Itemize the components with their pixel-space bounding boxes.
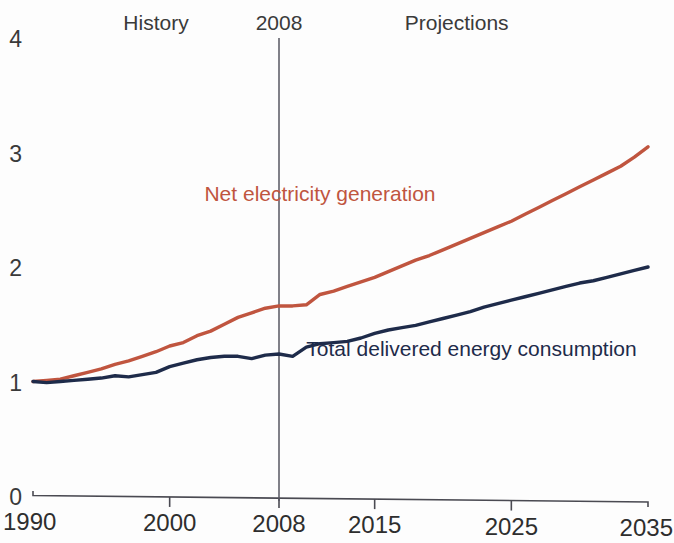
y-axis-tick-label: 3 [9, 141, 22, 167]
y-axis-tick-label: 4 [9, 26, 22, 52]
series-label-net-electricity-generation: Net electricity generation [204, 182, 435, 205]
series-label-total-delivered-energy-consumption: Total delivered energy consumption [306, 337, 636, 360]
x-axis-tick-label: 2000 [143, 509, 196, 536]
x-axis-tick-label: 1990 [3, 508, 56, 535]
y-axis-tick-label: 1 [9, 370, 22, 396]
x-axis-tick-label: 2025 [485, 513, 538, 540]
x-axis-tick-label: 2035 [620, 514, 673, 541]
annotation-projections: Projections [405, 11, 509, 34]
chart-container: 19902000200820152025203501234History2008… [0, 0, 674, 543]
annotation-2008: 2008 [256, 11, 303, 34]
x-axis-tick-label: 2015 [348, 511, 401, 538]
y-axis-tick-label: 0 [9, 484, 22, 510]
series-line-total-delivered-energy-consumption [33, 267, 648, 383]
line-chart-svg: 19902000200820152025203501234History2008… [0, 0, 674, 543]
x-axis-tick-label: 2008 [252, 510, 305, 537]
annotation-history: History [123, 11, 189, 34]
y-axis-tick-label: 2 [9, 255, 22, 281]
x-axis-line [33, 491, 648, 507]
